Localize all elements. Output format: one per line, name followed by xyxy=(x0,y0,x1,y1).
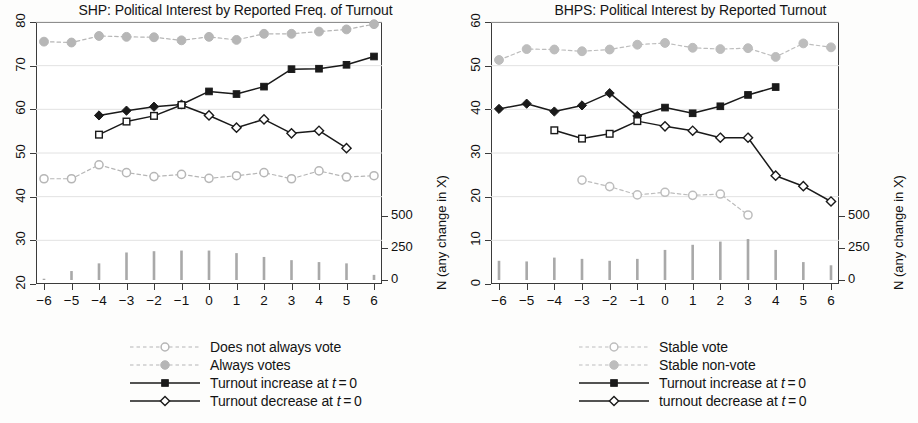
legend-marker-open-circle-icon xyxy=(128,339,202,355)
legend-item: Turnout decrease at t = 0 xyxy=(128,392,362,410)
x-axis-tick-label: −3 xyxy=(113,293,141,308)
legend-marker-open-circle-icon xyxy=(577,339,651,355)
x-axis-tick-label: 0 xyxy=(651,293,679,308)
y2-axis-tick-label: 250 xyxy=(391,239,413,254)
x-axis-tick-mark xyxy=(665,284,666,290)
x-axis-tick-label: 6 xyxy=(360,293,388,308)
legend-item: turnout decrease at t = 0 xyxy=(577,392,807,410)
x-axis-tick-mark xyxy=(499,284,500,290)
x-axis-tick-label: 1 xyxy=(223,293,251,308)
legend-marker-filled-square-icon xyxy=(128,375,202,391)
legend-item: Stable non-vote xyxy=(577,356,807,374)
y2-axis-tick-label: 500 xyxy=(848,207,870,222)
panel-bhps-plot-area xyxy=(491,22,839,284)
y-axis-tick-label: 50 xyxy=(463,57,487,75)
x-axis-tick-mark xyxy=(127,284,128,290)
x-axis-tick-label: 3 xyxy=(734,293,762,308)
y2-axis-tick-label: 250 xyxy=(848,239,870,254)
x-axis-tick-mark xyxy=(527,284,528,290)
y-axis-tick-label: 60 xyxy=(8,100,32,118)
panel-bhps-title: BHPS: Political Interest by Reported Tur… xyxy=(459,2,918,18)
x-axis-tick-label: −1 xyxy=(168,293,196,308)
x-axis-tick-label: −5 xyxy=(58,293,86,308)
legend-label: Turnout decrease at t = 0 xyxy=(202,393,362,409)
x-axis-tick-mark xyxy=(582,284,583,290)
legend-marker-open-diamond-icon xyxy=(128,393,202,409)
y-axis-tick-mark xyxy=(485,240,491,241)
x-axis-tick-mark xyxy=(637,284,638,290)
x-axis-tick-mark xyxy=(831,284,832,290)
y-axis-tick-mark xyxy=(30,109,36,110)
x-axis-tick-label: 1 xyxy=(679,293,707,308)
panel-shp-plot-area xyxy=(36,22,382,284)
y-axis-tick-label: 10 xyxy=(463,231,487,249)
x-axis-tick-mark xyxy=(776,284,777,290)
x-axis-tick-mark xyxy=(610,284,611,290)
y-axis-tick-label: 60 xyxy=(463,13,487,31)
legend-marker-filled-square-icon xyxy=(577,375,651,391)
y2-axis-tick-mark xyxy=(382,248,388,249)
x-axis-tick-mark xyxy=(72,284,73,290)
x-axis-tick-label: 5 xyxy=(333,293,361,308)
x-axis-tick-label: −4 xyxy=(85,293,113,308)
y-axis-tick-label: 80 xyxy=(8,13,32,31)
legend-label: Stable non-vote xyxy=(651,357,756,373)
y-axis-tick-label: 50 xyxy=(8,144,32,162)
x-axis-tick-label: 4 xyxy=(305,293,333,308)
y-axis-tick-mark xyxy=(30,197,36,198)
y-axis-tick-mark xyxy=(485,66,491,67)
y2-axis-title: N (any change in X) xyxy=(891,175,906,290)
y2-axis-tick-mark xyxy=(839,216,845,217)
x-axis-tick-mark xyxy=(803,284,804,290)
y-axis-tick-mark xyxy=(30,22,36,23)
legend-label: Does not always vote xyxy=(202,339,341,355)
y-axis-tick-mark xyxy=(485,197,491,198)
x-axis-tick-mark xyxy=(748,284,749,290)
panel-shp-legend: Does not always voteAlways votesTurnout … xyxy=(128,338,362,410)
legend-item: Does not always vote xyxy=(128,338,362,356)
legend-marker-filled-circle-icon xyxy=(128,357,202,373)
x-axis-tick-mark xyxy=(554,284,555,290)
y-axis-tick-mark xyxy=(485,153,491,154)
y-axis-tick-label: 20 xyxy=(8,275,32,293)
y-axis-tick-label: 40 xyxy=(8,188,32,206)
x-axis-tick-label: 4 xyxy=(762,293,790,308)
legend-marker-open-diamond-icon xyxy=(577,393,651,409)
legend-marker-filled-circle-icon xyxy=(577,357,651,373)
x-axis-tick-mark xyxy=(182,284,183,290)
y2-axis-title: N (any change in X) xyxy=(434,175,449,290)
y-axis-tick-label: 30 xyxy=(463,144,487,162)
x-axis-tick-label: 0 xyxy=(195,293,223,308)
y-axis-tick-mark xyxy=(485,22,491,23)
legend-item: Turnout increase at t = 0 xyxy=(577,374,807,392)
x-axis-tick-label: 2 xyxy=(250,293,278,308)
y-axis-tick-mark xyxy=(485,109,491,110)
x-axis-tick-label: −2 xyxy=(140,293,168,308)
x-axis-tick-mark xyxy=(237,284,238,290)
y2-axis-tick-label: 0 xyxy=(391,271,398,286)
legend-item: Stable vote xyxy=(577,338,807,356)
x-axis-tick-label: 3 xyxy=(278,293,306,308)
x-axis-tick-label: 6 xyxy=(817,293,845,308)
x-axis-tick-mark xyxy=(209,284,210,290)
panel-bhps-legend: Stable voteStable non-voteTurnout increa… xyxy=(577,338,807,410)
y-axis-tick-mark xyxy=(30,284,36,285)
panel-shp: SHP: Political Interest by Reported Freq… xyxy=(0,0,459,423)
legend-label: Turnout increase at t = 0 xyxy=(202,375,357,391)
x-axis-tick-mark xyxy=(44,284,45,290)
y-axis-tick-mark xyxy=(30,66,36,67)
y2-axis-tick-label: 500 xyxy=(391,207,413,222)
x-axis-tick-label: −5 xyxy=(513,293,541,308)
x-axis-tick-label: −6 xyxy=(485,293,513,308)
panel-bhps: BHPS: Political Interest by Reported Tur… xyxy=(459,0,918,423)
y2-axis-tick-mark xyxy=(382,216,388,217)
y2-axis-tick-mark xyxy=(839,248,845,249)
x-axis-tick-mark xyxy=(99,284,100,290)
y2-axis-tick-mark xyxy=(382,280,388,281)
legend-item: Turnout increase at t = 0 xyxy=(128,374,362,392)
x-axis-tick-label: −4 xyxy=(540,293,568,308)
panel-shp-title: SHP: Political Interest by Reported Freq… xyxy=(0,2,465,18)
figure-two-panel-line-charts: SHP: Political Interest by Reported Freq… xyxy=(0,0,918,423)
legend-label: turnout decrease at t = 0 xyxy=(651,393,807,409)
x-axis-tick-label: −1 xyxy=(623,293,651,308)
